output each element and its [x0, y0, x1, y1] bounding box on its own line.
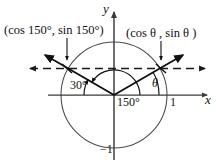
angle-150-label: 150° [117, 96, 140, 108]
y-tick-negative-one-label: −1 [100, 143, 113, 155]
angle-theta-label: θ [152, 77, 158, 89]
angle-arc-150 [92, 70, 140, 95]
terminal-point-theta-label: (cos θ , sin θ ) [126, 27, 196, 40]
terminal-ray-theta [114, 55, 183, 95]
y-axis-label: y [103, 2, 109, 15]
terminal-point-150-label: (cos 150°, sin 150°) [4, 24, 104, 37]
x-tick-one-label: 1 [170, 96, 176, 108]
angle-30-label: 30° [70, 79, 87, 91]
unit-circle-figure: (cos 150°, sin 150°) (cos θ , sin θ ) 30… [0, 0, 222, 167]
x-axis-label: x [205, 93, 211, 106]
